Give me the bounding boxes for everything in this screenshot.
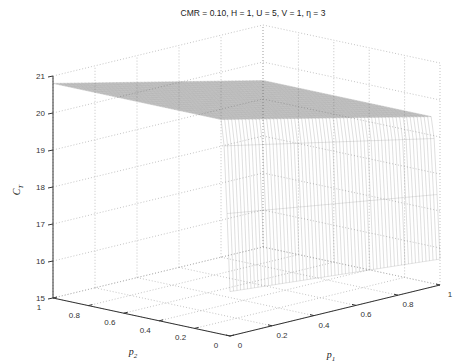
z-axis-label: CT [11,184,25,196]
svg-text:0.2: 0.2 [175,333,187,342]
svg-text:0: 0 [214,341,219,350]
svg-text:0.6: 0.6 [104,318,116,327]
svg-text:0.6: 0.6 [360,310,372,319]
svg-text:17: 17 [36,220,45,229]
svg-text:0.2: 0.2 [276,331,288,340]
y-axis-label: p2 [128,346,138,360]
svg-text:20: 20 [36,109,45,118]
svg-text:1: 1 [37,303,42,312]
svg-text:19: 19 [36,146,45,155]
chart-canvas: 1516171819202100.20.40.60.8100.20.40.60.… [0,0,455,362]
svg-text:21: 21 [36,72,45,81]
svg-text:0.8: 0.8 [69,311,81,320]
svg-text:18: 18 [36,183,45,192]
svg-text:15: 15 [36,294,45,303]
surface-chart: 1516171819202100.20.40.60.8100.20.40.60.… [0,0,455,362]
svg-text:1: 1 [448,290,453,299]
surface-mesh [53,81,440,292]
svg-text:16: 16 [36,257,45,266]
chart-title: CMR = 0.10, H = 1, U = 5, V = 1, η = 3 [181,8,326,18]
svg-text:0.4: 0.4 [140,326,152,335]
svg-text:0.4: 0.4 [318,321,330,330]
svg-text:0: 0 [238,341,243,350]
svg-text:0.8: 0.8 [402,300,414,309]
x-axis-label: p1 [326,349,336,362]
